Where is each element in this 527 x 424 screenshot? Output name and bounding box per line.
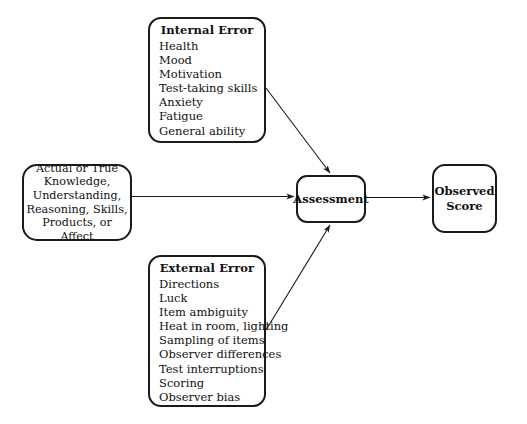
text-line: Score: [435, 199, 495, 214]
text-line: Knowledge,: [24, 175, 130, 189]
list-item: Motivation: [159, 67, 264, 81]
arrow-internal-error-to-assessment: [266, 88, 330, 173]
list-item: General ability: [159, 124, 264, 138]
external-error-node: External Error Directions Luck Item ambi…: [148, 255, 266, 407]
text-line: Products, or Affect: [24, 216, 130, 243]
text-line: Actual or True: [24, 162, 130, 176]
text-line: Understanding,: [24, 189, 130, 203]
list-item: Luck: [159, 291, 264, 305]
list-item: Test interruptions: [159, 362, 264, 376]
list-item: Heat in room, lighting: [159, 319, 264, 333]
list-item: Directions: [159, 277, 264, 291]
list-item: Sampling of items: [159, 333, 264, 347]
true-knowledge-node: Actual or True Knowledge, Understanding,…: [22, 164, 132, 241]
list-item: Observer bias: [159, 390, 264, 404]
list-item: Item ambiguity: [159, 305, 264, 319]
external-error-list: Directions Luck Item ambiguity Heat in r…: [150, 277, 264, 404]
list-item: Fatigue: [159, 109, 264, 123]
observed-score-node: Observed Score: [432, 164, 497, 233]
diagram-canvas: Internal Error Health Mood Motivation Te…: [0, 0, 527, 424]
list-item: Anxiety: [159, 95, 264, 109]
internal-error-title: Internal Error: [150, 23, 264, 38]
list-item: Health: [159, 39, 264, 53]
external-error-title: External Error: [150, 261, 264, 276]
text-line: Reasoning, Skills,: [24, 203, 130, 217]
arrow-external-error-to-assessment: [266, 225, 330, 330]
list-item: Observer differences: [159, 347, 264, 361]
assessment-node: Assessment: [296, 175, 366, 223]
list-item: Mood: [159, 53, 264, 67]
text-line: Observed: [435, 184, 495, 199]
assessment-label: Assessment: [293, 192, 368, 206]
list-item: Scoring: [159, 376, 264, 390]
observed-score-label: Observed Score: [435, 184, 495, 213]
true-knowledge-label: Actual or True Knowledge, Understanding,…: [24, 162, 130, 244]
internal-error-list: Health Mood Motivation Test-taking skill…: [150, 39, 264, 138]
list-item: Test-taking skills: [159, 81, 264, 95]
internal-error-node: Internal Error Health Mood Motivation Te…: [148, 17, 266, 143]
